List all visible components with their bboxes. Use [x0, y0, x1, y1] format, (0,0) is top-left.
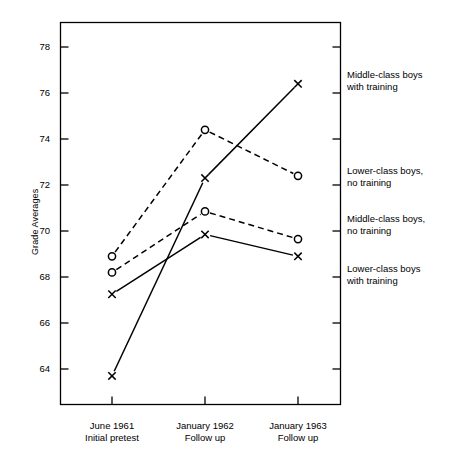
series-line-segment	[210, 132, 294, 173]
series-2	[108, 208, 301, 276]
series-line-segment	[114, 183, 203, 371]
data-point-x	[108, 372, 115, 379]
data-point-x	[108, 291, 115, 298]
series-line-segment	[210, 213, 293, 238]
data-point-circle	[108, 269, 115, 276]
plot-frame	[61, 23, 341, 405]
data-point-x	[201, 174, 208, 181]
data-point-circle	[108, 253, 115, 260]
data-point-x	[201, 231, 208, 238]
axes-frame	[61, 23, 341, 405]
data-point-circle	[294, 235, 301, 242]
plot-area	[0, 0, 453, 456]
series-line-segment	[116, 237, 200, 291]
series-line-segment	[210, 236, 293, 255]
series-1	[108, 126, 301, 260]
series-line-segment	[115, 134, 202, 252]
axis-ticks	[61, 47, 341, 405]
data-point-circle	[201, 126, 208, 133]
series-3	[108, 231, 301, 298]
data-point-x	[294, 80, 301, 87]
data-point-x	[294, 253, 301, 260]
series-line-segment	[116, 214, 200, 269]
chart-figure: Grade Averages 78 76 74 72 70 68 66 64 J…	[0, 0, 453, 456]
data-point-circle	[294, 172, 301, 179]
data-series-group	[108, 80, 301, 380]
series-line-segment	[209, 88, 295, 175]
series-0	[108, 80, 301, 380]
data-point-circle	[201, 208, 208, 215]
